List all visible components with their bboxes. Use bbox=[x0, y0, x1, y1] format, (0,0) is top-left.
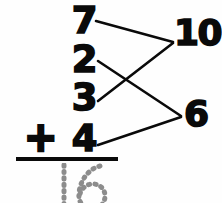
plus-operator: + bbox=[24, 117, 52, 157]
connector-4-to-6 bbox=[98, 117, 181, 145]
math-worksheet-canvas: + 7 2 3 4 10 6 bbox=[0, 0, 222, 203]
connector-7-to-10 bbox=[96, 21, 173, 42]
addend-digit-4: 4 bbox=[67, 120, 101, 157]
answer-trace-16[interactable] bbox=[52, 163, 130, 203]
connector-3-to-10 bbox=[98, 43, 173, 101]
addend-digit-3: 3 bbox=[67, 79, 101, 116]
pair-sum-six: 6 bbox=[184, 96, 208, 132]
addend-digit-1: 7 bbox=[67, 2, 101, 39]
addend-digit-2: 2 bbox=[67, 41, 101, 78]
answer-trace-digit-6 bbox=[79, 166, 105, 203]
pair-sum-ten: 10 bbox=[174, 15, 221, 51]
addition-rule-line bbox=[16, 157, 118, 161]
